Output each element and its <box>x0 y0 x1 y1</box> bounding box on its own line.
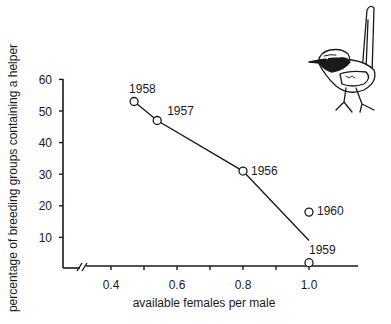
data-point-label: 1958 <box>129 82 156 96</box>
y-tick-label: 50 <box>39 105 53 119</box>
y-axis-title: percentage of breeding groups containing… <box>6 44 20 312</box>
data-points: 19581957195619601959 <box>129 82 344 267</box>
axis-break-icon <box>77 263 87 271</box>
data-point-label: 1957 <box>167 104 194 118</box>
x-tick-label: 0.4 <box>103 278 120 292</box>
data-point-marker-icon <box>239 167 247 175</box>
data-point-marker-icon <box>153 116 161 124</box>
bird-illustration-icon <box>309 6 375 112</box>
y-tick-label: 40 <box>39 136 53 150</box>
y-tick-label: 60 <box>39 73 53 87</box>
data-point-label: 1956 <box>251 164 278 178</box>
x-axis: 0.40.60.81.0 <box>63 263 358 292</box>
x-axis-ticks: 0.40.60.81.0 <box>103 266 318 292</box>
y-tick-label: 30 <box>39 168 53 182</box>
x-tick-label: 0.6 <box>169 278 186 292</box>
y-tick-label: 10 <box>39 231 53 245</box>
chart: percentage of breeding groups containing… <box>0 0 391 324</box>
x-axis-title: available females per male <box>133 296 276 310</box>
y-axis-ticks: 102030405060 <box>39 73 63 245</box>
data-point-label: 1960 <box>317 204 344 218</box>
y-tick-label: 20 <box>39 199 53 213</box>
x-tick-label: 1.0 <box>301 278 318 292</box>
x-tick-label: 0.8 <box>235 278 252 292</box>
data-point-label: 1959 <box>309 243 336 257</box>
data-point-marker-icon <box>130 98 138 106</box>
data-point-marker-icon <box>305 259 313 267</box>
y-axis: 102030405060 <box>39 73 63 268</box>
data-point-marker-icon <box>305 208 313 216</box>
